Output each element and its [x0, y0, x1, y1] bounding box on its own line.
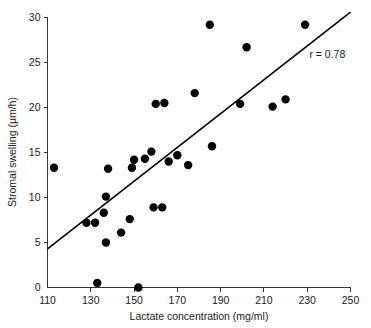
y-tick-label: 15 — [29, 146, 41, 158]
data-point — [149, 203, 157, 211]
data-point — [102, 192, 110, 200]
regression-line — [48, 12, 351, 249]
regression-line-path — [48, 12, 351, 249]
data-point — [206, 21, 214, 29]
data-point — [50, 164, 58, 172]
data-point — [147, 147, 155, 155]
data-points — [50, 21, 309, 292]
axes — [48, 18, 351, 288]
x-tick-label: 110 — [39, 294, 56, 306]
x-tick-label: 170 — [169, 294, 187, 306]
data-point — [301, 21, 309, 29]
data-point — [268, 102, 276, 110]
data-point — [281, 95, 289, 103]
data-point — [141, 155, 149, 163]
x-tick-label: 230 — [298, 294, 316, 306]
data-point — [184, 161, 192, 169]
x-tick-label: 130 — [82, 294, 100, 306]
x-tick-label: 210 — [255, 294, 273, 306]
data-point — [152, 100, 160, 108]
data-point — [82, 219, 90, 227]
data-point — [130, 156, 138, 164]
scatter-plot-figure: 051015202530 110130150170190210230250 r … — [0, 0, 371, 328]
x-tick-label: 150 — [125, 294, 143, 306]
y-tick-labels: 051015202530 — [29, 11, 41, 293]
y-tick-label: 30 — [29, 11, 41, 23]
correlation-coefficient-label: r = 0.78 — [309, 48, 345, 60]
y-tick-label: 5 — [35, 236, 41, 248]
y-tick-label: 0 — [35, 281, 41, 293]
y-tick-label: 25 — [29, 56, 41, 68]
data-point — [102, 238, 110, 246]
data-point — [236, 100, 244, 108]
data-point — [165, 157, 173, 165]
axis-ticks — [44, 18, 351, 292]
data-point — [134, 283, 142, 291]
chart-annotations: r = 0.78 — [309, 48, 345, 60]
data-point — [160, 99, 168, 107]
y-tick-label: 10 — [29, 191, 41, 203]
data-point — [173, 151, 181, 159]
data-point — [100, 209, 108, 217]
x-tick-label: 190 — [212, 294, 230, 306]
data-point — [190, 89, 198, 97]
y-axis-title: Stromal swelling (μm/h) — [6, 97, 18, 207]
data-point — [117, 228, 125, 236]
y-tick-label: 20 — [29, 101, 41, 113]
data-point — [158, 203, 166, 211]
data-point — [242, 43, 250, 51]
data-point — [93, 279, 101, 287]
x-axis-title: Lactate concentration (mg/ml) — [130, 310, 269, 322]
data-point — [104, 165, 112, 173]
data-point — [126, 215, 134, 223]
data-point — [91, 219, 99, 227]
data-point — [128, 164, 136, 172]
plot-canvas: 051015202530 110130150170190210230250 r … — [0, 0, 371, 328]
x-tick-labels: 110130150170190210230250 — [39, 294, 359, 306]
x-tick-label: 250 — [342, 294, 360, 306]
data-point — [208, 142, 216, 150]
